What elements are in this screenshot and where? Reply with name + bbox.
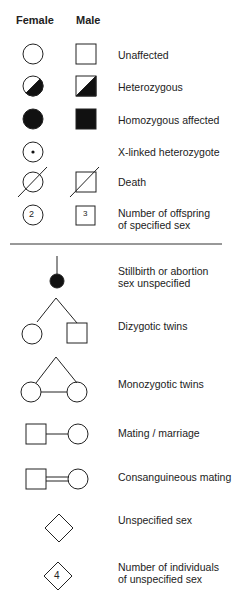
male-homozygous-icon — [76, 109, 96, 129]
unspecified-count: 4 — [54, 570, 60, 581]
unspecified-sex-icon — [45, 514, 73, 542]
label-unspecified-count: Number of individuals of unspecified sex — [118, 561, 219, 585]
female-heterozygous-icon — [23, 76, 43, 96]
mating-icon — [26, 424, 88, 444]
label-unspecified: Unspecified sex — [118, 514, 192, 526]
female-unaffected-icon — [23, 44, 43, 64]
female-offspring-count: 2 — [29, 209, 34, 219]
label-unaffected: Unaffected — [118, 49, 169, 61]
label-mating: Mating / marriage — [118, 427, 200, 439]
stillbirth-icon — [50, 256, 64, 288]
male-heterozygous-icon — [76, 76, 96, 96]
monozygotic-twins-icon — [21, 357, 87, 402]
female-death-icon — [18, 167, 47, 197]
male-unaffected-icon — [76, 44, 96, 64]
x-linked-heterozygote-icon — [23, 142, 43, 162]
consanguineous-mating-icon — [26, 469, 88, 489]
label-x-linked: X-linked heterozygote — [118, 146, 220, 158]
label-dizygotic: Dizygotic twins — [118, 320, 187, 332]
female-homozygous-icon — [23, 109, 43, 129]
label-stillbirth: Stillbirth or abortion sex unspecified — [118, 265, 208, 289]
label-heterozygous: Heterozygous — [118, 81, 183, 93]
male-offspring-count: 3 — [83, 209, 87, 218]
label-monozygotic: Monozygotic twins — [118, 378, 204, 390]
label-death: Death — [118, 176, 146, 188]
dizygotic-twins-icon — [22, 298, 87, 344]
label-consanguineous: Consanguineous mating — [118, 471, 231, 483]
label-offspring: Number of offspring of specified sex — [118, 207, 210, 231]
label-homozygous: Homozygous affected — [118, 114, 219, 126]
male-death-icon — [70, 167, 99, 197]
